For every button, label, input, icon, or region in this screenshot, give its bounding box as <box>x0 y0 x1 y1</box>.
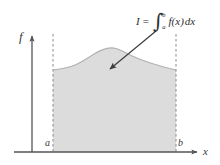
shaded-area-region <box>53 48 176 152</box>
y-axis-label: f <box>19 30 23 43</box>
lower-bound-label: a <box>45 138 50 148</box>
integral-formula-annotation: I = ∫ b a f(x) dx <box>136 11 195 30</box>
integral-area-figure: f x a b I = ∫ b a f(x) dx <box>0 0 220 165</box>
equals-sign: = <box>143 15 149 27</box>
upper-bound-label: b <box>178 138 183 148</box>
x-axis-label: x <box>203 146 208 157</box>
integral-limits: b a <box>162 11 165 30</box>
integrand-expression: f(x) <box>169 15 184 27</box>
integral-upper-limit: b <box>162 11 165 18</box>
integral-lower-limit: a <box>162 23 165 30</box>
differential-dx: dx <box>185 15 195 27</box>
integral-operator: ∫ b a <box>153 11 166 30</box>
integral-symbol-I: I <box>136 15 140 27</box>
